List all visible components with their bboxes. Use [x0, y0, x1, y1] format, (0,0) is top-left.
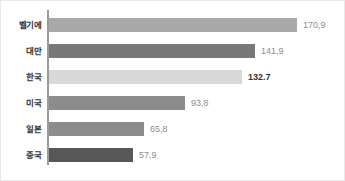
value-label: 141,9 [261, 44, 284, 58]
bar-row: 벨기에170,9 [0, 12, 345, 38]
bar-row: 미국93,8 [0, 90, 345, 116]
category-label: 벨기에 [0, 21, 42, 30]
bar [49, 18, 297, 32]
plot-area: 벨기에170,9대만141,9한국132.7미국93,8일본65,8중국57,9 [0, 0, 345, 181]
bar-chart-figure: 벨기에170,9대만141,9한국132.7미국93,8일본65,8중국57,9 [0, 0, 345, 181]
bar [49, 148, 133, 162]
value-label: 170,9 [303, 18, 326, 32]
value-label: 57,9 [139, 148, 157, 162]
value-label: 65,8 [150, 122, 168, 136]
bar [49, 70, 242, 84]
value-label: 132.7 [248, 70, 271, 84]
category-label: 한국 [0, 73, 42, 82]
bar-row: 대만141,9 [0, 38, 345, 64]
bar [49, 122, 144, 136]
bar-row: 한국132.7 [0, 64, 345, 90]
category-label: 중국 [0, 151, 42, 160]
value-label: 93,8 [191, 96, 209, 110]
category-label: 대만 [0, 47, 42, 56]
bar [49, 96, 185, 110]
category-label: 미국 [0, 99, 42, 108]
bar-row: 중국57,9 [0, 142, 345, 168]
bar [49, 44, 255, 58]
category-label: 일본 [0, 125, 42, 134]
bar-row: 일본65,8 [0, 116, 345, 142]
